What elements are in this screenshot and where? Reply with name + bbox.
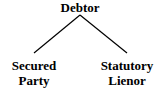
node-statutory-lienor-line2: Lienor	[96, 73, 158, 88]
node-statutory-lienor-line1: Statutory	[96, 58, 158, 73]
edge-debtor-secured-party	[34, 15, 80, 53]
node-debtor: Debtor	[0, 0, 160, 15]
node-statutory-lienor: Statutory Lienor	[96, 58, 158, 88]
edge-debtor-statutory-lienor	[80, 15, 127, 53]
node-debtor-label: Debtor	[61, 0, 100, 15]
node-secured-party-line2: Party	[4, 73, 64, 88]
node-secured-party: Secured Party	[4, 58, 64, 88]
node-secured-party-line1: Secured	[4, 58, 64, 73]
